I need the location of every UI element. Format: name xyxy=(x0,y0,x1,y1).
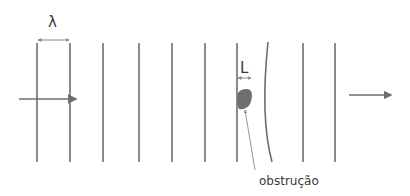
obstruction-shape xyxy=(237,89,252,109)
diffraction-diagram: λ L obstrução xyxy=(0,0,410,196)
obstruction-label: obstrução xyxy=(259,174,319,188)
wavelength-label: λ xyxy=(48,13,57,31)
wavefronts xyxy=(37,43,335,162)
obstruction-pointer-line xyxy=(245,110,255,170)
curved-wavefront xyxy=(265,42,272,162)
obstruction-size-label: L xyxy=(240,59,249,77)
